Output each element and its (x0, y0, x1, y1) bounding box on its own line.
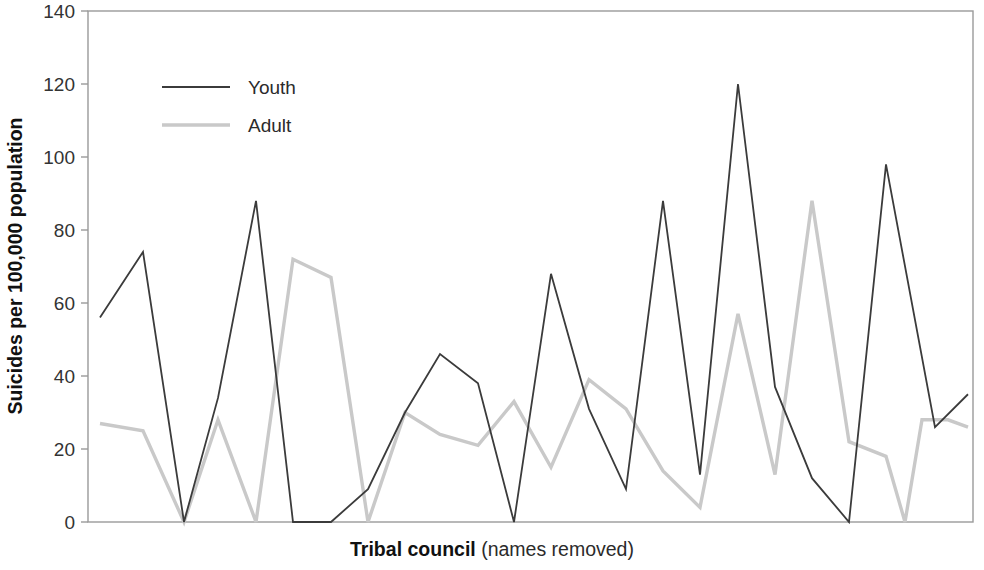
y-tick-label: 40 (54, 366, 75, 387)
chart-page: 020406080100120140 YouthAdult Suicides p… (0, 0, 984, 570)
y-axis-label: Suicides per 100,000 population (4, 118, 26, 415)
x-axis-label-normal: (names removed) (476, 538, 634, 560)
y-tick-label: 20 (54, 439, 75, 460)
line-chart: 020406080100120140 YouthAdult Suicides p… (0, 0, 984, 570)
legend-label-adult: Adult (248, 115, 292, 136)
y-tick-label: 140 (43, 1, 75, 22)
y-tick-label: 100 (43, 147, 75, 168)
y-tick-label: 120 (43, 74, 75, 95)
y-tick-label: 80 (54, 220, 75, 241)
x-axis-label: Tribal council (names removed) (350, 538, 634, 560)
legend-label-youth: Youth (248, 77, 296, 98)
y-tick-label: 60 (54, 293, 75, 314)
y-tick-label: 0 (64, 512, 75, 533)
y-axis-ticks: 020406080100120140 (43, 1, 88, 533)
x-axis-label-bold: Tribal council (350, 538, 476, 560)
